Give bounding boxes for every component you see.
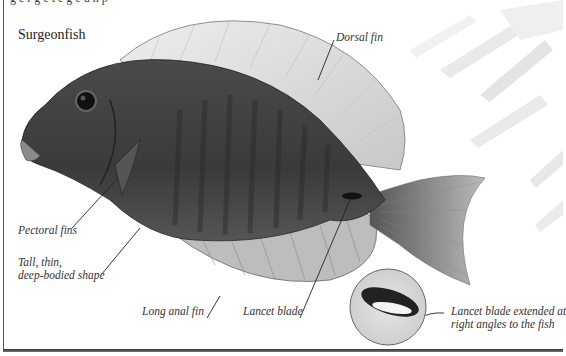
label-inset-line1: Lancet blade extended at (451, 305, 566, 318)
lancet-inset-circle (350, 269, 426, 345)
label-body-shape-line1: Tall, thin, (18, 256, 62, 269)
frame-left-border (3, 0, 4, 350)
label-pectoral-fins: Pectoral fins (18, 224, 77, 237)
body-shape-leader (101, 228, 140, 275)
label-long-anal-fin: Long anal fin (142, 305, 204, 318)
label-inset-line2: right angles to the fish (451, 318, 555, 331)
page-title: Surgeonfish (18, 27, 85, 43)
label-dorsal-fin: Dorsal fin (336, 31, 383, 44)
fish-eye (76, 91, 96, 111)
label-lancet-blade: Lancet blade (243, 305, 303, 318)
long-anal-fin-leader (207, 296, 220, 318)
frame-bottom-border (3, 349, 563, 352)
label-body-shape-line2: deep-bodied shape (18, 269, 105, 282)
